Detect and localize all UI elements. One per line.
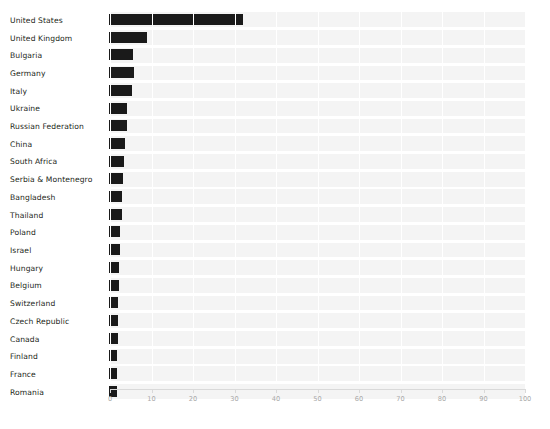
row-background-band [110, 260, 525, 275]
bar-row: Ukraine [0, 100, 550, 118]
row-background-band [110, 30, 525, 45]
x-axis-tick [152, 389, 153, 393]
bar-chart: United StatesUnited KingdomBulgariaGerma… [0, 0, 550, 429]
category-label: Bulgaria [10, 51, 42, 60]
x-axis-tick [359, 389, 360, 393]
row-background-band [110, 207, 525, 222]
bar[interactable] [109, 49, 133, 60]
x-axis-tick-label: 50 [313, 395, 321, 403]
bar-row: Bulgaria [0, 46, 550, 64]
bar-rows: United StatesUnited KingdomBulgariaGerma… [0, 11, 550, 400]
category-label: United States [10, 15, 63, 24]
x-axis-tick [442, 389, 443, 393]
x-axis-tick [525, 389, 526, 393]
bar[interactable] [109, 32, 147, 43]
bar[interactable] [109, 350, 117, 361]
bar-row: United States [0, 11, 550, 29]
row-background-band [110, 189, 525, 204]
category-label: Czech Republic [10, 316, 69, 325]
bar-row: Italy [0, 82, 550, 100]
bar-row: Finland [0, 347, 550, 365]
category-label: Israel [10, 245, 31, 254]
row-background-band [110, 331, 525, 346]
x-axis-tick-label: 0 [108, 395, 112, 403]
bar-row: Poland [0, 223, 550, 241]
row-background-band [110, 101, 525, 116]
bar[interactable] [109, 138, 125, 149]
category-label: Poland [10, 228, 36, 237]
category-label: Belgium [10, 281, 42, 290]
category-label: Finland [10, 352, 38, 361]
bar[interactable] [109, 191, 122, 202]
category-label: South Africa [10, 157, 57, 166]
row-background-band [110, 243, 525, 258]
category-label: Serbia & Montenegro [10, 175, 92, 184]
bar[interactable] [109, 315, 118, 326]
bar-row: Serbia & Montenegro [0, 170, 550, 188]
row-background-band [110, 119, 525, 134]
bar[interactable] [109, 156, 124, 167]
x-axis-tick-label: 100 [519, 395, 532, 403]
bar[interactable] [109, 85, 132, 96]
row-background-band [110, 349, 525, 364]
category-label: Switzerland [10, 299, 55, 308]
bar[interactable] [109, 120, 127, 131]
bar-row: France [0, 365, 550, 383]
row-background-band [110, 154, 525, 169]
bar[interactable] [109, 368, 117, 379]
x-axis: 0102030405060708090100 [0, 389, 550, 429]
bar-row: Israel [0, 241, 550, 259]
chart-title-clipped [0, 0, 550, 8]
bar[interactable] [109, 333, 118, 344]
category-label: China [10, 139, 32, 148]
row-background-band [110, 136, 525, 151]
row-background-band [110, 172, 525, 187]
bar[interactable] [109, 297, 118, 308]
bar[interactable] [109, 173, 123, 184]
bar-row: Thailand [0, 206, 550, 224]
x-axis-tick-label: 70 [396, 395, 404, 403]
bar[interactable] [109, 103, 127, 114]
category-label: France [10, 369, 36, 378]
x-axis-tick [110, 389, 111, 393]
category-label: Thailand [10, 210, 43, 219]
x-axis-tick-label: 60 [355, 395, 363, 403]
row-background-band [110, 366, 525, 381]
bar[interactable] [109, 209, 122, 220]
bar[interactable] [109, 244, 120, 255]
bar-row: Czech Republic [0, 312, 550, 330]
x-axis-tick-label: 80 [438, 395, 446, 403]
x-axis-tick [318, 389, 319, 393]
bar-row: Belgium [0, 277, 550, 295]
bar[interactable] [109, 280, 119, 291]
bar-row: Canada [0, 330, 550, 348]
bar-row: South Africa [0, 153, 550, 171]
category-label: United Kingdom [10, 33, 72, 42]
x-axis-tick [484, 389, 485, 393]
bar-row: Russian Federation [0, 117, 550, 135]
row-background-band [110, 83, 525, 98]
category-label: Hungary [10, 263, 43, 272]
bar-row: Switzerland [0, 294, 550, 312]
x-axis-tick-label: 90 [479, 395, 487, 403]
bar[interactable] [109, 67, 134, 78]
category-label: Bangladesh [10, 192, 56, 201]
bar-row: Bangladesh [0, 188, 550, 206]
plot-area: United StatesUnited KingdomBulgariaGerma… [0, 11, 550, 389]
x-axis-tick-label: 10 [147, 395, 155, 403]
bar[interactable] [109, 262, 119, 273]
x-axis-tick-label: 40 [272, 395, 280, 403]
x-axis-tick-label: 30 [230, 395, 238, 403]
x-axis-tick [235, 389, 236, 393]
bar-row: United Kingdom [0, 29, 550, 47]
category-label: Ukraine [10, 104, 40, 113]
bar[interactable] [109, 226, 120, 237]
bar-row: China [0, 135, 550, 153]
bar-row: Germany [0, 64, 550, 82]
bar[interactable] [109, 14, 243, 25]
x-axis-tick [193, 389, 194, 393]
row-background-band [110, 66, 525, 81]
row-background-band [110, 296, 525, 311]
row-background-band [110, 313, 525, 328]
category-label: Italy [10, 86, 27, 95]
